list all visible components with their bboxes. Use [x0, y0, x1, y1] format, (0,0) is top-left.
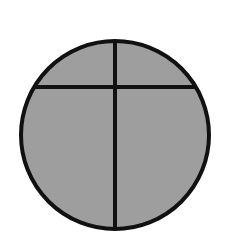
fraction-circle-diagram — [0, 0, 227, 235]
diagram-canvas — [0, 0, 227, 235]
